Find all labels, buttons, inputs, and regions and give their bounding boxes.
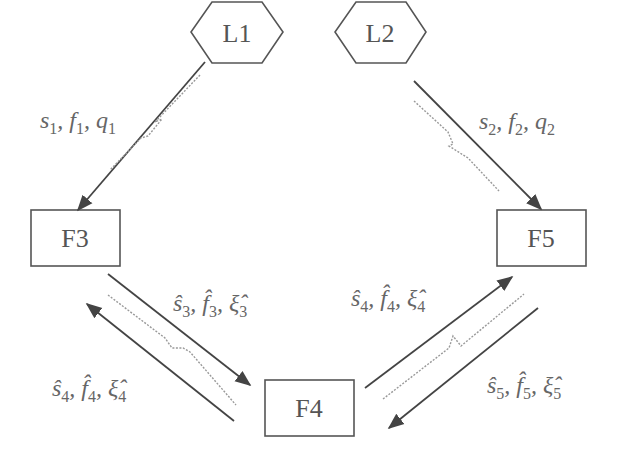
edge-l2-f5 — [414, 81, 541, 209]
svg-text:F3: F3 — [61, 224, 88, 253]
node-f3: F3 — [31, 210, 120, 266]
svg-text:L1: L1 — [223, 19, 252, 48]
node-l1: L1 — [191, 2, 283, 63]
edge-label-f5-f4: ŝ5, f̂5, ξ̂5 — [487, 371, 562, 402]
edge-f5-f4 — [389, 308, 538, 428]
node-f5: F5 — [497, 210, 586, 266]
network-diagram: L1 L2 F3 F5 F4 s1, f1, q1 s2, f2, q2 ŝ3,… — [0, 0, 619, 458]
node-f4: F4 — [265, 380, 354, 436]
edge-f4-f3 — [87, 304, 234, 421]
wireless-link-l1-f3-icon — [110, 75, 200, 170]
edge-label-f4-f3: ŝ4, f̂4, ξ̂4 — [52, 374, 127, 405]
edge-label-l2-f5: s2, f2, q2 — [479, 108, 555, 138]
edge-l1-f3 — [78, 62, 205, 210]
svg-text:L2: L2 — [366, 19, 395, 48]
svg-text:F4: F4 — [295, 394, 322, 423]
edge-label-l1-f3: s1, f1, q1 — [40, 107, 116, 137]
node-l2: L2 — [335, 2, 426, 63]
edge-label-f4-f5: ŝ4, f̂4, ξ̂4 — [351, 284, 426, 315]
svg-text:F5: F5 — [527, 224, 554, 253]
edge-label-f3-f4: ŝ3, f̂3, ξ̂3 — [173, 289, 248, 320]
